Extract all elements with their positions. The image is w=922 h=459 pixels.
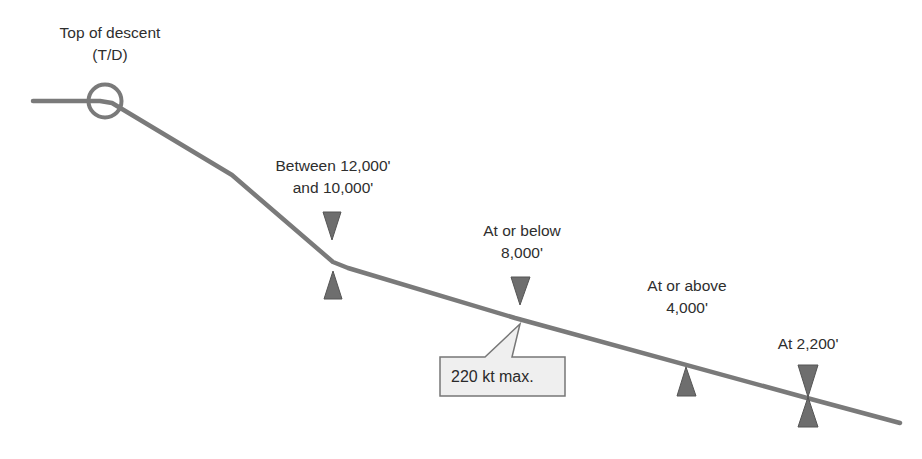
constraint-label-line1: Between 12,000'	[276, 155, 391, 177]
at-or-above-triangle-icon	[677, 367, 696, 396]
descent-profile-diagram: Top of descent (T/D) Between 12,000' and…	[0, 0, 922, 459]
constraint-label-line1: At 2,200'	[778, 333, 839, 355]
speed-callout-text: 220 kt max.	[451, 367, 534, 387]
constraint-label-line2: 4,000'	[647, 297, 726, 319]
top-of-descent-label: Top of descent (T/D)	[60, 22, 161, 66]
at-or-below-triangle-icon	[511, 277, 530, 305]
constraint-label-line2: 8,000'	[483, 242, 561, 264]
descent-profile-graphic	[0, 0, 922, 459]
constraint-label-above-4000: At or above 4,000'	[647, 275, 726, 319]
constraint-label-line1: At or below	[483, 220, 561, 242]
constraint-label-line2: and 10,000'	[276, 177, 391, 199]
at-or-below-triangle-icon	[323, 212, 341, 240]
constraint-label-below-8000: At or below 8,000'	[483, 220, 561, 264]
at-or-below-triangle-icon	[798, 365, 818, 397]
constraint-label-line1: At or above	[647, 275, 726, 297]
top-of-descent-label-line1: Top of descent	[60, 22, 161, 44]
at-or-above-triangle-icon	[324, 271, 342, 299]
constraint-label-at-2200: At 2,200'	[778, 333, 839, 355]
constraint-label-window: Between 12,000' and 10,000'	[276, 155, 391, 199]
top-of-descent-label-line2: (T/D)	[60, 44, 161, 66]
